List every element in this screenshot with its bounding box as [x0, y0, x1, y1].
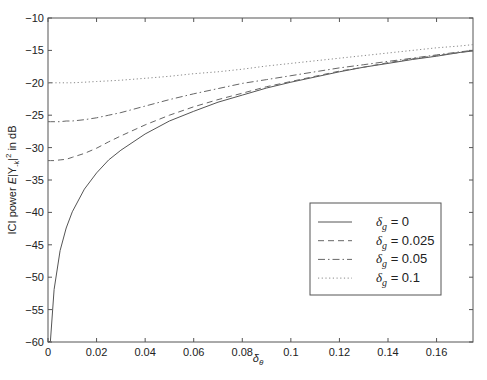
x-tick-label: 0.02 [86, 346, 107, 358]
ici-power-chart: 00.020.040.060.080.10.120.140.16 −60−55−… [0, 0, 487, 380]
x-axis-label: δθ [253, 352, 264, 367]
x-tick-label: 0.1 [283, 346, 298, 358]
y-tick-label: −25 [25, 109, 44, 121]
x-tick-label: 0 [45, 346, 51, 358]
y-tick-label: −35 [25, 174, 44, 186]
x-tick-label: 0.14 [377, 346, 398, 358]
y-tick-label: −30 [25, 142, 44, 154]
y-tick-label: −40 [25, 206, 44, 218]
y-tick-label: −20 [25, 77, 44, 89]
x-tick-label: 0.16 [426, 346, 447, 358]
x-tick-label: 0.06 [183, 346, 204, 358]
x-tick-label: 0.08 [232, 346, 253, 358]
y-tick-label: −45 [25, 239, 44, 251]
legend: δg = 0δg = 0.025δg = 0.05δg = 0.1 [310, 203, 441, 295]
y-tick-label: −50 [25, 271, 44, 283]
y-tick-label: −15 [25, 44, 44, 56]
x-tick-label: 0.12 [329, 346, 350, 358]
y-tick-label: −10 [25, 12, 44, 24]
y-tick-label: −60 [25, 336, 44, 348]
y-tick-label: −55 [25, 304, 44, 316]
x-tick-label: 0.04 [134, 346, 155, 358]
y-axis-label: ICI power E|Y-k|2 in dB [4, 126, 20, 235]
